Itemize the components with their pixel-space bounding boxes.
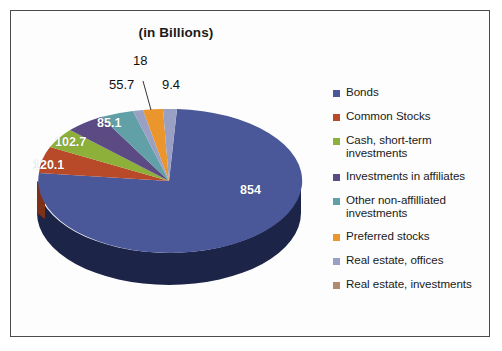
legend-item-common-stocks[interactable]: Common Stocks [333,109,495,124]
page-title: (in Billions) [11,25,341,40]
legend-item-preferred-stocks[interactable]: Preferred stocks [333,229,495,244]
slice-value-cash: 102.7 [55,135,86,149]
legend-item-label: Real estate, investments [346,277,472,290]
legend-item-label: Other non-affilliated investments [346,193,495,220]
chart-frame: (in Billions) [10,10,490,337]
slice-value-preferred-stocks: 18 [133,53,147,68]
chart-figure: (in Billions) [0,0,502,351]
leader-lines [143,81,151,110]
legend-item-cash[interactable]: Cash, short-term investments [333,133,495,160]
pie-top-faces [38,109,302,253]
legend: Bonds Common Stocks Cash, short-term inv… [333,85,495,301]
legend-swatch-icon [333,258,340,265]
legend-swatch-icon [333,138,340,145]
legend-swatch-icon [333,234,340,241]
legend-swatch-icon [333,198,340,205]
pie-chart: 854 120.1 102.7 85.1 55.7 18 9.4 [25,51,321,321]
legend-item-affiliates[interactable]: Investments in affiliates [333,169,495,184]
legend-swatch-icon [333,174,340,181]
legend-item-label: Bonds [346,85,379,98]
legend-item-label: Preferred stocks [346,229,430,242]
slice-value-bonds: 854 [240,183,261,197]
legend-item-label: Real estate, offices [346,253,443,266]
slice-value-affiliates: 85.1 [97,116,121,130]
legend-item-real-estate-investments[interactable]: Real estate, investments [333,277,495,292]
leader-line-preferred [143,81,151,110]
legend-item-label: Investments in affiliates [346,169,465,182]
legend-item-label: Cash, short-term investments [346,133,495,160]
legend-item-real-estate-offices[interactable]: Real estate, offices [333,253,495,268]
slice-value-real-estate-offices: 9.4 [162,77,180,92]
slice-value-common-stocks: 120.1 [33,158,64,172]
legend-item-label: Common Stocks [346,109,430,122]
legend-swatch-icon [333,114,340,121]
legend-swatch-icon [333,90,340,97]
slice-value-other-non-affiliated: 55.7 [109,77,134,92]
legend-swatch-icon [333,282,340,289]
legend-item-bonds[interactable]: Bonds [333,85,495,100]
legend-item-other-non-affiliated[interactable]: Other non-affilliated investments [333,193,495,220]
